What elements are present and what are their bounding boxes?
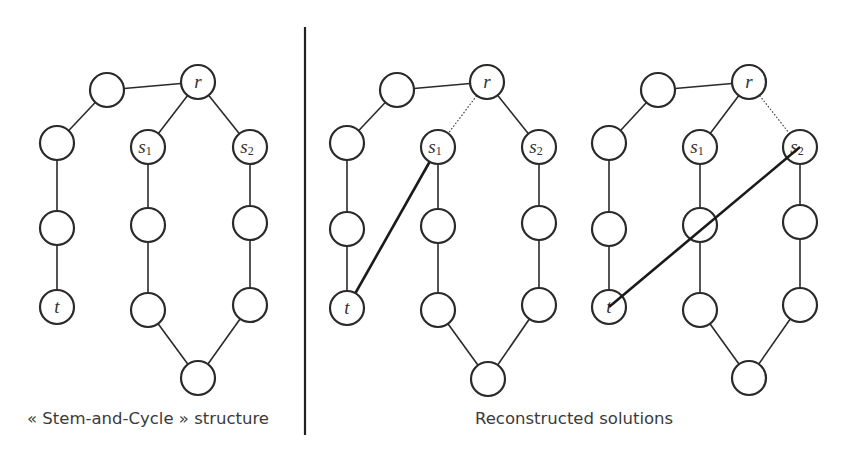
node-circle — [592, 126, 626, 160]
node-circle — [641, 73, 675, 107]
node-circle — [471, 362, 505, 396]
node-label: r — [745, 71, 753, 92]
node-a — [380, 73, 414, 107]
node-b — [592, 126, 626, 160]
caption-stem-and-cycle: « Stem-and-Cycle » structure — [27, 409, 269, 428]
node-circle — [683, 293, 717, 327]
panel-stem-and-cycle: rts1s2 — [40, 65, 267, 395]
node-circle — [131, 208, 165, 242]
node-h — [181, 361, 215, 395]
node-h — [471, 362, 505, 396]
node-circle — [421, 209, 455, 243]
node-g — [522, 288, 556, 322]
node-g — [233, 288, 267, 322]
node-f — [233, 206, 267, 240]
node-label: t — [54, 296, 60, 317]
node-circle — [380, 73, 414, 107]
node-f — [522, 206, 556, 240]
node-circle — [330, 126, 364, 160]
node-h — [732, 361, 766, 395]
node-e — [131, 293, 165, 327]
node-t: t — [330, 291, 364, 325]
node-circle — [783, 288, 817, 322]
node-circle — [783, 205, 817, 239]
node-r: r — [732, 65, 766, 99]
node-circle — [421, 293, 455, 327]
node-s2: s2 — [522, 130, 556, 164]
node-s1: s1 — [683, 130, 717, 164]
node-circle — [233, 206, 267, 240]
node-circle — [592, 212, 626, 246]
caption-reconstructed-solutions: Reconstructed solutions — [475, 409, 673, 428]
node-circle — [732, 361, 766, 395]
node-label: r — [483, 71, 491, 92]
node-circle — [522, 288, 556, 322]
edge-t-s2-bold — [609, 147, 800, 307]
node-circle — [131, 293, 165, 327]
panel-reconstructed-2: rts1s2 — [592, 65, 817, 395]
node-g — [783, 288, 817, 322]
panel-reconstructed-1: rts1s2 — [330, 65, 556, 396]
node-a — [90, 73, 124, 107]
node-circle — [40, 126, 74, 160]
node-label: t — [344, 297, 350, 318]
node-d — [683, 208, 717, 242]
node-s2: s2 — [233, 130, 267, 164]
node-circle — [40, 211, 74, 245]
node-circle — [330, 212, 364, 246]
node-r: r — [470, 65, 504, 99]
node-label: r — [194, 71, 202, 92]
node-a — [641, 73, 675, 107]
stem-and-cycle-diagram: rts1s2rts1s2rts1s2 « Stem-and-Cycle » st… — [0, 0, 847, 469]
node-f — [783, 205, 817, 239]
node-r: r — [181, 65, 215, 99]
node-circle — [522, 206, 556, 240]
node-circle — [233, 288, 267, 322]
node-c — [330, 212, 364, 246]
node-s1: s1 — [131, 130, 165, 164]
node-circle — [90, 73, 124, 107]
node-d — [131, 208, 165, 242]
node-b — [330, 126, 364, 160]
node-s1: s1 — [421, 130, 455, 164]
node-t: t — [40, 290, 74, 324]
node-b — [40, 126, 74, 160]
node-circle — [181, 361, 215, 395]
node-d — [421, 209, 455, 243]
node-c — [40, 211, 74, 245]
node-e — [683, 293, 717, 327]
node-c — [592, 212, 626, 246]
graph-panels: rts1s2rts1s2rts1s2 — [40, 65, 817, 396]
node-circle — [683, 208, 717, 242]
node-e — [421, 293, 455, 327]
